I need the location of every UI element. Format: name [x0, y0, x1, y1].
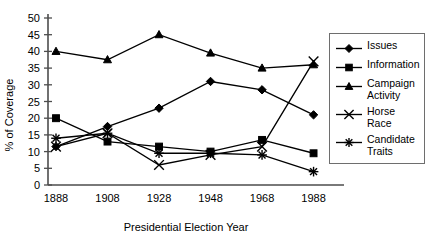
chart-legend: IssuesInformationCampaign ActivityHorse …: [329, 33, 425, 164]
x-tick-label: 1908: [95, 192, 119, 204]
triangle-marker-icon: [335, 79, 363, 92]
y-tick-label: 45: [28, 29, 40, 41]
y-axis-title: % of Coverage: [3, 79, 15, 152]
legend-item-issues[interactable]: Issues: [335, 40, 420, 54]
series-candidate-traits: [51, 128, 318, 176]
y-tick-label: 40: [28, 45, 40, 57]
series-campaign-activity: [52, 31, 318, 72]
y-tick-label: 5: [34, 162, 40, 174]
legend-item-label: Candidate Traits: [367, 134, 415, 157]
y-tick-label: 10: [28, 146, 40, 158]
x-tick-label: 1948: [198, 192, 222, 204]
legend-item-label: Horse Race: [367, 106, 420, 129]
x-tick-label: 1988: [301, 192, 325, 204]
legend-item-information[interactable]: Information: [335, 59, 420, 73]
legend-item-horse-race[interactable]: Horse Race: [335, 106, 420, 129]
data-series: [51, 31, 318, 177]
y-tick-label: 25: [28, 96, 40, 108]
diamond-marker-icon: [335, 41, 363, 54]
y-tick-label: 0: [34, 179, 40, 191]
y-tick-label: 50: [28, 12, 40, 24]
y-tick-label: 30: [28, 79, 40, 91]
x-tick-label: 1888: [44, 192, 68, 204]
y-tick-label: 15: [28, 129, 40, 141]
legend-item-label: Information: [367, 59, 420, 71]
legend-item-label: Issues: [367, 40, 397, 52]
legend-item-candidate-traits[interactable]: Candidate Traits: [335, 134, 420, 157]
square-marker-icon: [335, 60, 363, 73]
cross-marker-icon: [335, 107, 363, 120]
x-axis-title: Presidential Election Year: [124, 221, 249, 233]
x-tick-label: 1928: [147, 192, 171, 204]
y-tick-label: 35: [28, 62, 40, 74]
legend-item-label: Campaign Activity: [367, 78, 415, 101]
asterisk-marker-icon: [335, 135, 363, 148]
y-tick-label: 20: [28, 112, 40, 124]
chart-figure: 0510152025303540455018881908192819481968…: [0, 0, 432, 237]
x-tick-label: 1968: [250, 192, 274, 204]
axes: 0510152025303540455018881908192819481968…: [28, 12, 344, 204]
legend-item-campaign-activity[interactable]: Campaign Activity: [335, 78, 420, 101]
series-issues: [52, 77, 318, 151]
